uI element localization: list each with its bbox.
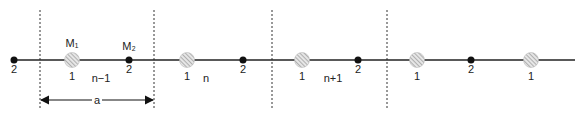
atom-type-1-hatched-circle <box>524 53 539 68</box>
atom-1-label: 1 <box>69 70 75 82</box>
atom-type-1-hatched-circle <box>410 53 425 68</box>
atom-type-1-hatched-circle <box>180 53 195 68</box>
atom-2-label: 2 <box>468 63 474 75</box>
atom-2-label: 2 <box>126 63 132 75</box>
atom-2-label: 2 <box>11 63 17 75</box>
atom-1-label: 1 <box>528 70 534 82</box>
lattice-constant-arrow: a <box>41 93 153 106</box>
diatomic-chain-diagram: 22M₂2221M₁1111n−1nn+1 a <box>0 0 584 113</box>
atom-2-label: 2 <box>240 63 246 75</box>
atom-1-label: 1 <box>299 70 305 82</box>
atom-2-label: 2 <box>355 63 361 75</box>
atom-type-1-hatched-circle <box>65 53 80 68</box>
mass-label-m1: M₁ <box>66 37 79 49</box>
atom-1-label: 1 <box>184 70 190 82</box>
lattice-constant-label: a <box>94 94 101 106</box>
mass-label-m2: M₂ <box>122 40 135 52</box>
cell-index-label: n <box>203 72 209 84</box>
atom-1-label: 1 <box>414 70 420 82</box>
atom-type-1-hatched-circle <box>295 53 310 68</box>
cell-index-label: n−1 <box>92 72 111 84</box>
cell-index-label: n+1 <box>324 72 343 84</box>
